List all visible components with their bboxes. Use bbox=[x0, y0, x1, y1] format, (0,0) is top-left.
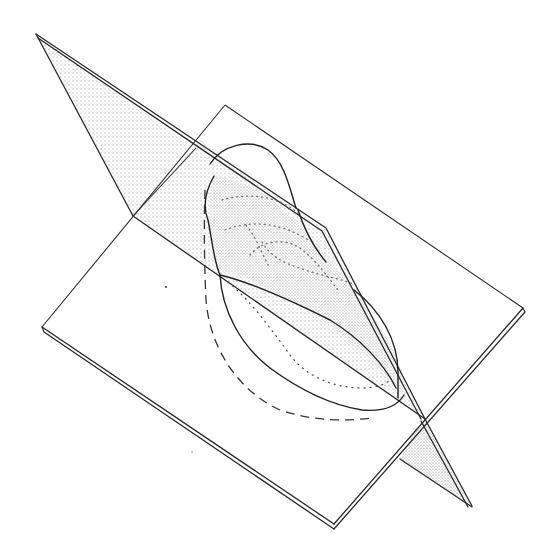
diagram-canvas bbox=[0, 0, 555, 553]
intersecting-planes-diagram bbox=[0, 0, 555, 553]
